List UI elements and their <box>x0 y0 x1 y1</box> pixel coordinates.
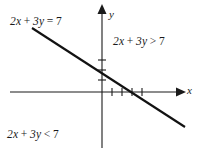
less-coef-y: 3y <box>30 128 41 140</box>
x-axis-arrowhead <box>176 87 186 96</box>
equation-constant: 7 <box>56 15 62 27</box>
inequality-graph-figure: 2x+3y=7 2x+3y>7 2x+3y<7 x y <box>0 0 208 152</box>
less-constant: 7 <box>53 128 59 140</box>
x-axis-label: x <box>187 85 192 96</box>
equation-coef-x: 2x <box>10 15 21 27</box>
greater-relation-sign: > <box>147 35 159 47</box>
less-coef-x: 2x <box>7 128 18 140</box>
less-plus-sign: + <box>18 128 30 140</box>
less-relation-sign: < <box>41 128 53 140</box>
y-axis-arrowhead <box>98 4 107 14</box>
equation-coef-y: 3y <box>33 15 44 27</box>
equation-plus-sign: + <box>21 15 33 27</box>
region-above-label: 2x+3y>7 <box>113 36 165 48</box>
greater-constant: 7 <box>159 35 165 47</box>
greater-coef-x: 2x <box>113 35 124 47</box>
boundary-line-equation-label: 2x+3y=7 <box>10 16 62 28</box>
greater-plus-sign: + <box>124 35 136 47</box>
greater-coef-y: 3y <box>136 35 147 47</box>
region-below-label: 2x+3y<7 <box>7 129 59 141</box>
y-axis-label: y <box>109 9 114 20</box>
equation-relation-sign: = <box>44 15 56 27</box>
